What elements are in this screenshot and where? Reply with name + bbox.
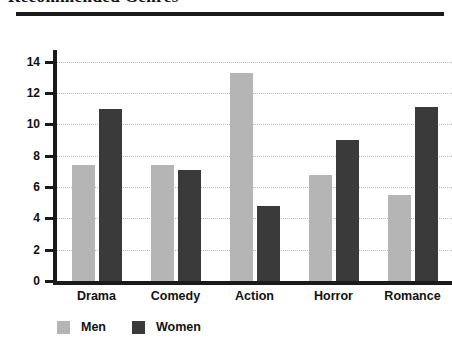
y-axis-tick-mark — [45, 61, 54, 64]
x-axis-spine — [53, 281, 452, 285]
y-axis-tick-label: 14 — [10, 56, 40, 68]
y-axis-tick-mark — [45, 186, 54, 189]
y-axis-tick-label: 4 — [10, 212, 40, 224]
legend-swatch-icon — [132, 321, 145, 334]
bar-horror-women — [336, 140, 359, 281]
bar-action-women — [257, 206, 280, 281]
bar-romance-women — [415, 107, 438, 281]
bar-action-men — [230, 73, 253, 281]
bar-drama-men — [72, 165, 95, 281]
y-axis-tick-label: 6 — [10, 181, 40, 193]
bar-romance-men — [388, 195, 411, 281]
x-axis-label-romance: Romance — [363, 289, 452, 303]
title-divider — [16, 12, 444, 16]
y-axis-tick-mark — [45, 280, 54, 283]
page-title-clip: Recommended Genres — [0, 0, 452, 9]
legend-item-men[interactable]: Men — [57, 320, 106, 334]
y-axis-tick-label: 12 — [10, 87, 40, 99]
gridline — [57, 62, 452, 63]
plot-area — [57, 48, 452, 281]
legend-label: Men — [81, 320, 106, 334]
y-axis-tick-label: 0 — [10, 275, 40, 287]
chart-legend: MenWomen — [57, 320, 201, 334]
bar-comedy-women — [178, 170, 201, 281]
y-axis-tick-mark — [45, 155, 54, 158]
bar-comedy-men — [151, 165, 174, 281]
y-axis-tick-label: 2 — [10, 244, 40, 256]
bar-chart: 02468101214 DramaComedyActionHorrorRoman… — [0, 24, 452, 353]
y-axis-tick-mark — [45, 92, 54, 95]
page-title: Recommended Genres — [8, 0, 179, 7]
legend-swatch-icon — [57, 321, 70, 334]
y-axis-tick-mark — [45, 123, 54, 126]
bar-drama-women — [99, 109, 122, 281]
y-axis-tick-mark — [45, 249, 54, 252]
legend-item-women[interactable]: Women — [132, 320, 201, 334]
y-axis-tick-mark — [45, 217, 54, 220]
y-axis-tick-label: 8 — [10, 150, 40, 162]
bar-horror-men — [309, 175, 332, 282]
legend-label: Women — [156, 320, 201, 334]
y-axis-tick-label: 10 — [10, 118, 40, 130]
gridline — [57, 93, 452, 94]
